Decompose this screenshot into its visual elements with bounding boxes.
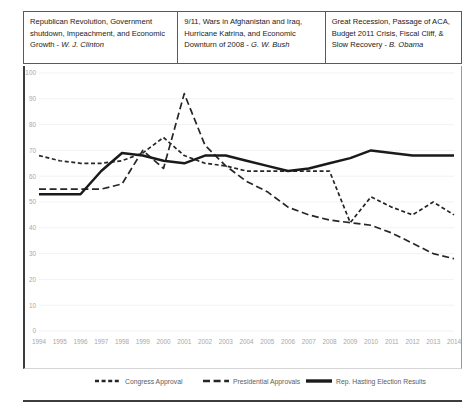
x-axis-tick-label: 2007 [302,338,317,345]
y-axis-tick-label: 90 [29,95,37,102]
x-axis-tick-label: 2014 [447,338,462,345]
x-axis-tick-label: 1994 [32,338,47,345]
y-axis-tick-label: 20 [29,276,37,283]
x-axis-tick-label: 2008 [322,338,337,345]
x-axis-tick-label: 1999 [136,338,151,345]
y-axis-tick-label: 60 [29,173,37,180]
chart-canvas: 0102030405060708090100199419951996199719… [25,66,462,367]
x-axis-tick-label: 1995 [53,338,68,345]
y-axis-tick-label: 0 [32,327,36,334]
header-cell-bush: 9/11, Wars in Afghanistan and Iraq, Hurr… [178,12,325,63]
x-axis-tick-label: 2000 [156,338,171,345]
legend-canvas: Congress ApprovalPresidential ApprovalsR… [23,372,460,400]
y-axis-tick-label: 80 [29,121,37,128]
x-axis-tick-label: 2012 [405,338,420,345]
y-axis-tick-label: 100 [25,69,36,76]
legend: Congress ApprovalPresidential ApprovalsR… [23,372,462,402]
y-axis-tick-label: 50 [29,198,37,205]
x-axis-tick-label: 2009 [343,338,358,345]
x-axis-tick-label: 2006 [281,338,296,345]
header-president-clinton: W. J. Clinton [61,40,104,49]
x-axis-tick-label: 1996 [73,338,88,345]
plot-area: 0102030405060708090100199419951996199719… [23,66,462,369]
x-axis-tick-label: 2001 [177,338,192,345]
x-axis-tick-label: 2002 [198,338,213,345]
legend-label: Rep. Hasting Election Results [336,378,427,386]
annotation-header-band: Republican Revolution, Government shutdo… [23,11,462,64]
x-axis-tick-label: 2013 [426,338,441,345]
x-axis-tick-label: 2005 [260,338,275,345]
header-president-bush: G. W. Bush [251,40,290,49]
legend-label: Presidential Approvals [233,378,301,386]
x-axis-tick-label: 2011 [385,338,399,345]
x-axis-tick-label: 2004 [239,338,254,345]
header-president-obama: B. Obama [389,40,423,49]
y-axis-tick-label: 30 [29,250,37,257]
y-axis-tick-label: 70 [29,147,37,154]
series-line [39,150,454,194]
y-axis-tick-label: 10 [29,302,37,309]
x-axis-tick-label: 1998 [115,338,130,345]
x-axis-tick-label: 2003 [219,338,234,345]
x-axis-tick-label: 1997 [94,338,109,345]
legend-label: Congress Approval [125,378,183,386]
header-cell-obama: Great Recession, Passage of ACA, Budget … [326,12,461,63]
y-axis-tick-label: 40 [29,224,37,231]
header-cell-clinton: Republican Revolution, Government shutdo… [24,12,178,63]
chart-figure: Republican Revolution, Government shutdo… [0,0,465,420]
x-axis-tick-label: 2010 [364,338,379,345]
